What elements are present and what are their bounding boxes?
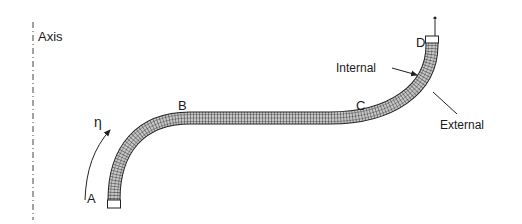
external-leader-line: [433, 92, 457, 114]
internal-label: Internal: [336, 61, 376, 75]
internal-leader-arrow: [392, 68, 417, 75]
point-label-c: C: [356, 98, 365, 113]
point-label-a: A: [87, 191, 96, 206]
shell-mesh: [108, 36, 439, 208]
shell-end-a: [108, 200, 121, 208]
diagram-canvas: Axis η A B C D Internal External: [0, 0, 522, 224]
eta-direction-arrow-icon: [85, 130, 110, 200]
shell-end-d: [426, 36, 439, 43]
load-point-icon: [433, 16, 436, 19]
eta-label: η: [94, 114, 102, 130]
shell-fill: [114, 38, 432, 208]
point-label-b: B: [178, 98, 187, 113]
point-label-d: D: [416, 35, 425, 50]
axis-label: Axis: [38, 29, 63, 44]
external-label: External: [440, 118, 484, 132]
